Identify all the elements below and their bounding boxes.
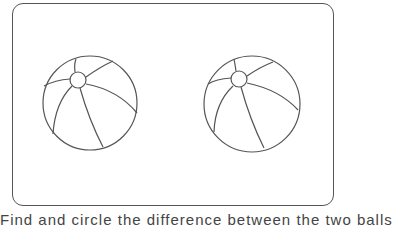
worksheet-caption: Find and circle the difference between t…	[0, 211, 348, 228]
right-beach-ball	[204, 56, 300, 152]
left-beach-ball	[43, 56, 137, 150]
